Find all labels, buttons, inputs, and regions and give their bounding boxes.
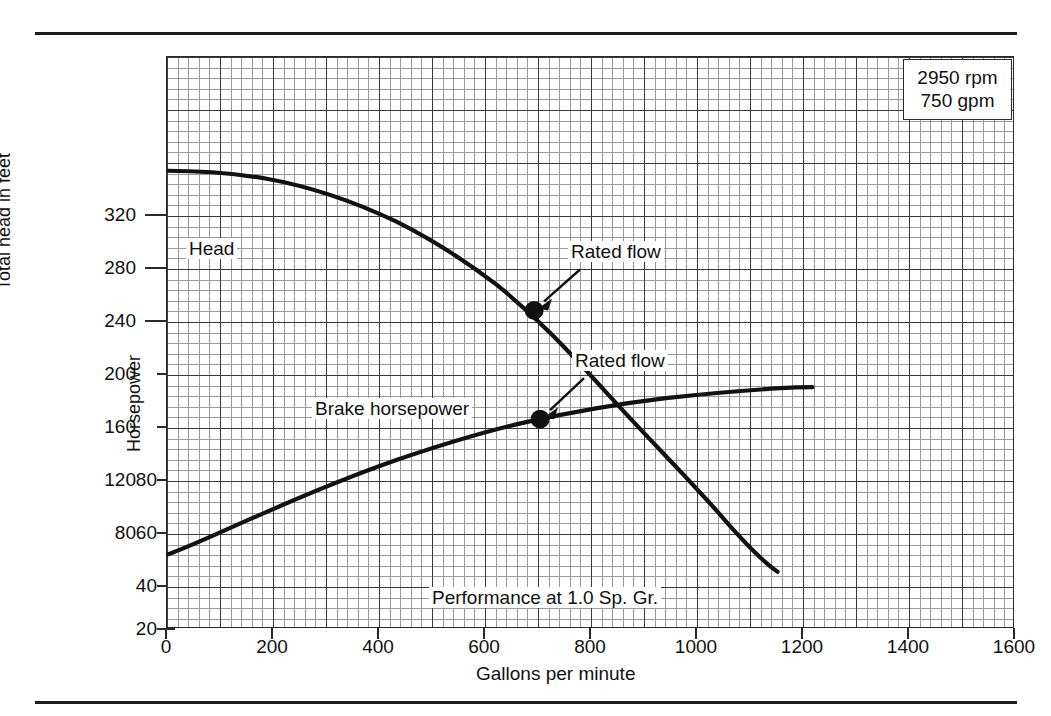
y-tick-head-320: 320: [78, 205, 136, 224]
x-tick-800: 800: [555, 637, 625, 656]
annotation-head-label: Head: [186, 238, 237, 259]
y-tick-head-200: 200: [78, 364, 136, 383]
x-tick-1600: 1600: [979, 637, 1049, 656]
rated-flow-marker-head: [525, 301, 544, 320]
bhp-curve: [167, 387, 812, 555]
bottom-horizontal-rule: [35, 701, 1017, 704]
x-tickmark-200: [271, 628, 273, 639]
x-tickmark-1400: [907, 628, 909, 639]
x-tick-1000: 1000: [661, 637, 731, 656]
x-tick-1200: 1200: [767, 637, 837, 656]
x-tickmark-1600: [1013, 628, 1015, 639]
top-horizontal-rule: [35, 32, 1017, 35]
x-tick-200: 200: [237, 637, 307, 656]
conditions-legend-box: 2950 rpm 750 gpm: [903, 59, 1012, 120]
legend-speed-value: 2950 rpm: [912, 66, 1003, 89]
y-tick-hp-60: 60: [117, 523, 157, 542]
y-tick-head-160: 160: [78, 417, 136, 436]
chart-plot-area: Head Rated flow Brake horsepower Rated f…: [166, 56, 1014, 628]
x-tick-600: 600: [449, 637, 519, 656]
x-tickmark-0: [165, 628, 167, 639]
annotation-rated-flow-bhp: Rated flow: [572, 350, 668, 371]
y-axis-label-head: Total head in feet: [0, 153, 15, 290]
x-tickmark-400: [377, 628, 379, 639]
y-tick-hp-20: 20: [117, 619, 157, 638]
head-curve: [167, 171, 778, 572]
legend-flowrate-value: 750 gpm: [912, 89, 1003, 112]
annotation-performance-note: Performance at 1.0 Sp. Gr.: [429, 587, 661, 608]
y-tick-head-240: 240: [78, 311, 136, 330]
annotation-bhp-label: Brake horsepower: [312, 398, 472, 419]
curve-layer: [167, 57, 1013, 628]
rated-flow-marker-bhp: [531, 410, 550, 429]
x-tickmark-1200: [801, 628, 803, 639]
x-tick-400: 400: [343, 637, 413, 656]
x-tickmark-1000: [695, 628, 697, 639]
rated-flow-arrow-head: [538, 269, 580, 310]
y-tick-hp-80: 80: [117, 470, 157, 489]
x-tickmark-800: [589, 628, 591, 639]
annotation-rated-flow-head: Rated flow: [568, 241, 664, 262]
x-tickmark-600: [483, 628, 485, 639]
x-axis-label: Gallons per minute: [476, 663, 635, 685]
y-tick-head-280: 280: [78, 258, 136, 277]
y-tick-hp-40: 40: [117, 576, 157, 595]
x-tick-1400: 1400: [873, 637, 943, 656]
x-tick-0: 0: [131, 637, 201, 656]
